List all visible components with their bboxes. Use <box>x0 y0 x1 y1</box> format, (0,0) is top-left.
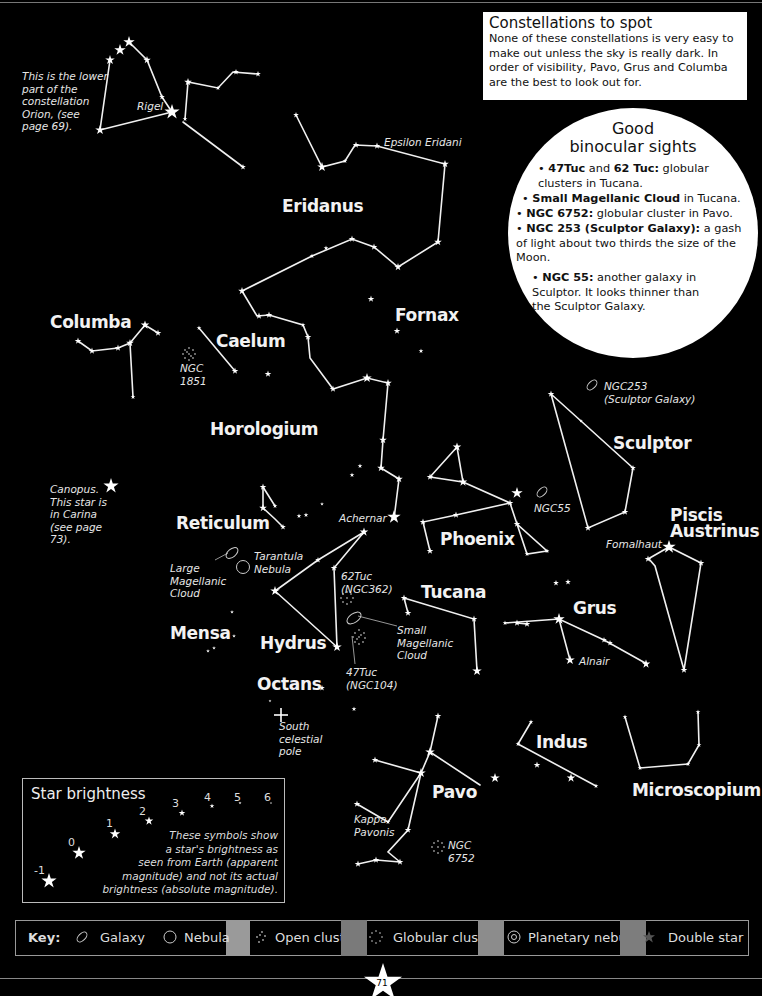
star-brightness-legend: Star brightness These symbols show a sta… <box>22 778 285 903</box>
key-item-double-star: Double star <box>642 930 743 945</box>
label-ngc55: NGC55 <box>534 502 571 515</box>
constellations-to-spot-box: Constellations to spot None of these con… <box>483 12 747 100</box>
constellation-austrinus: Austrinus <box>670 521 759 541</box>
label-large-magellanic-cloud: Large Magellanic Cloud <box>170 562 226 600</box>
label-fomalhaut: Fomalhaut <box>606 538 662 551</box>
label-epsilon-eridani: Epsilon Eridani <box>384 136 462 149</box>
magnitude-label: 5 <box>234 791 241 804</box>
label-alnair: Alnair <box>579 655 609 668</box>
spot-box-body: None of these constellations is very eas… <box>489 32 741 90</box>
key-bar: Key: Galaxy Nebula Open cluste Globular … <box>15 920 749 956</box>
planetary-nebula-icon <box>506 930 522 944</box>
binocular-sights-circle: Good binocular sights • 47Tuc and 62 Tuc… <box>508 108 758 358</box>
galaxy-icon <box>74 930 90 944</box>
constellation-horologium: Horologium <box>210 419 318 439</box>
label-ngc6752: NGC 6752 <box>448 839 475 864</box>
gray-block <box>478 920 504 956</box>
magnitude-label: 6 <box>264 791 271 804</box>
star-brightness-title: Star brightness <box>31 785 146 803</box>
constellation-phoenix: Phoenix <box>440 529 515 549</box>
label-tarantula-nebula: Tarantula Nebula <box>254 550 303 575</box>
constellation-hydrus: Hydrus <box>260 633 326 653</box>
label-62tuc: 62Tuc (NGC362) <box>341 570 393 595</box>
constellation-sculptor: Sculptor <box>613 433 691 453</box>
constellation-columba: Columba <box>50 312 131 332</box>
label-rigel: Rigel <box>137 100 163 113</box>
key-item-nebula: Nebula <box>162 930 230 945</box>
constellation-eridanus: Eridanus <box>282 196 363 216</box>
orion-note: This is the lower part of the constellat… <box>22 70 108 133</box>
label-ngc1851: NGC 1851 <box>180 362 207 387</box>
label-ngc253: NGC253 (Sculptor Galaxy) <box>604 380 695 405</box>
star-brightness-note: These symbols show a star's brightness a… <box>102 829 278 897</box>
label-achernar: Achernar <box>339 512 387 525</box>
label-small-magellanic-cloud: Small Magellanic Cloud <box>397 624 453 662</box>
binocular-item-smc: • Small Magellanic Cloud in Tucana. <box>522 192 754 207</box>
magnitude-label: 1 <box>106 817 113 830</box>
constellation-mensa: Mensa <box>170 623 231 643</box>
constellation-caelum: Caelum <box>216 331 285 351</box>
key-item-galaxy: Galaxy <box>74 930 145 945</box>
page-number: 71 <box>362 966 402 996</box>
constellation-microscopium: Microscopium <box>632 780 761 800</box>
constellation-tucana: Tucana <box>421 582 486 602</box>
key-item-planetary-nebula: Planetary nebula <box>506 930 620 945</box>
magnitude-label: 3 <box>172 797 179 810</box>
magnitude-label: 4 <box>204 791 211 804</box>
key-item-globular-cluster: Globular cluste <box>369 930 478 945</box>
gray-block <box>341 920 367 956</box>
canopus-note: Canopus. This star is in Carina (see pag… <box>50 483 107 546</box>
double-star-icon <box>642 930 656 944</box>
nebula-icon <box>162 930 178 944</box>
magnitude-label: 2 <box>139 805 146 818</box>
open-cluster-icon <box>253 930 267 944</box>
label-south-celestial-pole: South celestial pole <box>279 720 322 758</box>
spot-box-title: Constellations to spot <box>489 14 741 32</box>
binocular-item-ngc55: • NGC 55: another galaxy in Sculptor. It… <box>532 271 718 315</box>
key-label: Key: <box>28 930 60 945</box>
label-47tuc: 47Tuc (NGC104) <box>346 666 398 691</box>
magnitude-label: -1 <box>34 864 45 877</box>
constellation-fornax: Fornax <box>395 305 459 325</box>
constellation-grus: Grus <box>573 598 616 618</box>
binocular-item-ngc253: • NGC 253 (Sculptor Galaxy): a gash of l… <box>516 222 748 266</box>
binocular-item-tuc: • 47Tuc and 62 Tuc: globular clusters in… <box>538 162 738 191</box>
label-kappa-pavonis: Kappa Pavonis <box>354 813 394 838</box>
binocular-item-ngc6752: • NGC 6752: globular cluster in Pavo. <box>516 207 756 222</box>
constellation-pavo: Pavo <box>432 782 477 802</box>
constellation-octans: Octans <box>257 674 322 694</box>
constellation-indus: Indus <box>536 732 587 752</box>
magnitude-label: 0 <box>68 836 75 849</box>
constellation-reticulum: Reticulum <box>176 513 270 533</box>
globular-cluster-icon <box>369 930 383 944</box>
key-item-open-cluster: Open cluste <box>253 930 341 945</box>
binocular-title: Good binocular sights <box>508 120 758 156</box>
